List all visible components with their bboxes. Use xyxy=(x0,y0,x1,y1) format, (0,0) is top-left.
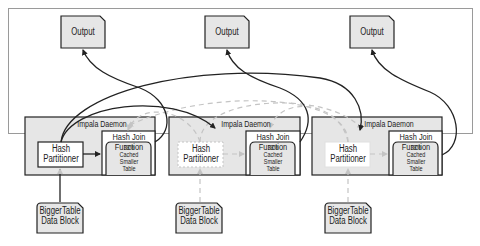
partitioner-label-2: Hash Partitioner xyxy=(182,144,221,164)
cache-label-1: 33% Cached Smaller Table xyxy=(111,144,147,172)
cache-label-2: 33% Cached Smaller Table xyxy=(255,144,291,172)
daemon-title-3: Impala Daemon xyxy=(358,120,420,129)
input-label-1: BiggerTable Data Block xyxy=(39,206,81,226)
input-label-3: BiggerTable Data Block xyxy=(327,206,369,226)
output-label-3: Output xyxy=(353,27,392,37)
daemon-title-1: Impala Daemon xyxy=(71,120,133,129)
output-label-2: Output xyxy=(208,27,247,37)
cache-label-3: 33% Cached Smaller Table xyxy=(398,144,434,172)
partitioner-label-1: Hash Partitioner xyxy=(42,144,81,164)
input-label-2: BiggerTable Data Block xyxy=(178,206,220,226)
partitioner-label-3: Hash Partitioner xyxy=(329,144,368,164)
output-label-1: Output xyxy=(64,27,103,37)
daemon-title-2: Impala Daemon xyxy=(215,120,277,129)
